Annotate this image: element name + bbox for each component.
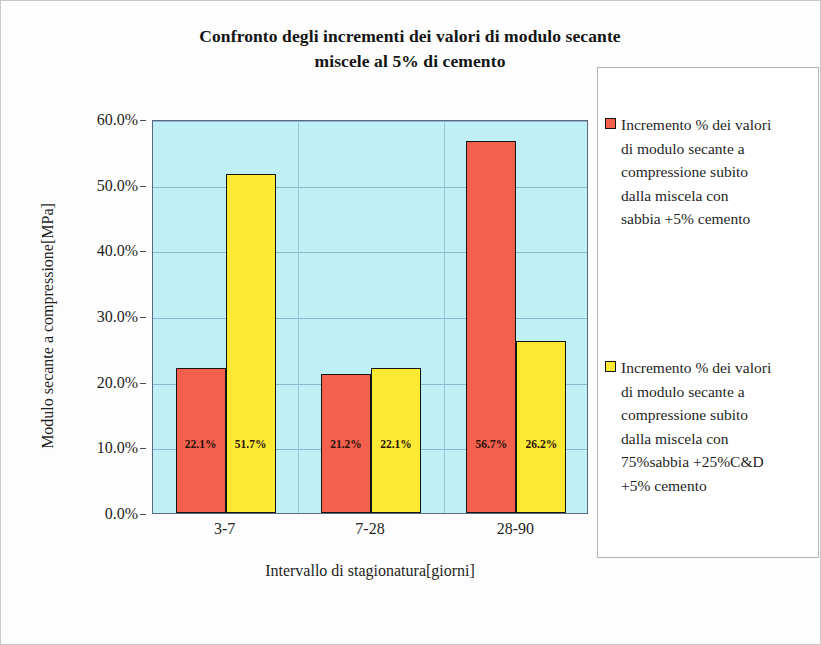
y-tick-label: 10.0% — [97, 439, 138, 457]
y-tick-mark — [140, 317, 146, 318]
legend: Incremento % dei valoridi modulo secante… — [597, 67, 819, 558]
bar-7-28-series-a[interactable]: 21.2% — [321, 374, 371, 513]
legend-label-line: compressione subito — [621, 160, 771, 184]
bar-value-label: 51.7% — [227, 438, 275, 450]
plot-area: 22.1%51.7%21.2%22.1%56.7%26.2% — [152, 120, 588, 514]
legend-label-line: dalla miscela con — [621, 427, 771, 451]
x-tick-label-7-28: 7-28 — [355, 520, 384, 538]
bar-3-7-series-b[interactable]: 51.7% — [226, 174, 276, 513]
x-axis-title: Intervallo di stagionatura[giorni] — [152, 562, 588, 580]
y-tick-label: 50.0% — [97, 177, 138, 195]
legend-label-line: 75%sabbia +25%C&D — [621, 450, 771, 474]
x-axis: 3-77-2828-90 — [152, 520, 588, 548]
gridline — [153, 252, 587, 253]
bar-28-90-series-a[interactable]: 56.7% — [466, 141, 516, 513]
y-tick-label: 60.0% — [97, 111, 138, 129]
legend-label-series-a: Incremento % dei valoridi modulo secante… — [621, 113, 771, 231]
legend-label-line: Incremento % dei valori — [621, 356, 771, 380]
bar-value-label: 56.7% — [467, 438, 515, 450]
bar-3-7-series-a[interactable]: 22.1% — [176, 368, 226, 513]
category-divider — [298, 121, 299, 513]
y-tick-mark — [140, 514, 146, 515]
legend-label-line: sabbia +5% cemento — [621, 207, 771, 231]
legend-label-line: di modulo secante a — [621, 380, 771, 404]
legend-label-series-b: Incremento % dei valoridi modulo secante… — [621, 356, 771, 497]
category-divider — [444, 121, 445, 513]
legend-entry-series-b[interactable]: Incremento % dei valoridi modulo secante… — [605, 356, 815, 497]
bar-7-28-series-b[interactable]: 22.1% — [371, 368, 421, 513]
x-tick-label-28-90: 28-90 — [497, 520, 534, 538]
bar-chart: Confronto degli incrementi dei valori di… — [0, 0, 821, 645]
x-tick-label-3-7: 3-7 — [214, 520, 235, 538]
y-tick-label: 20.0% — [97, 374, 138, 392]
y-tick-mark — [140, 448, 146, 449]
y-axis: 0.0%10.0%20.0%30.0%40.0%50.0%60.0% — [62, 120, 146, 514]
y-tick-mark — [140, 120, 146, 121]
bar-28-90-series-b[interactable]: 26.2% — [516, 341, 566, 513]
y-axis-title: Modulo secante a compressione[MPa] — [39, 126, 57, 526]
legend-label-line: dalla miscela con — [621, 184, 771, 208]
y-tick-mark — [140, 383, 146, 384]
bar-value-label: 21.2% — [322, 438, 370, 450]
chart-title-line-1: Confronto degli incrementi dei valori di… — [120, 24, 700, 49]
y-tick-label: 40.0% — [97, 242, 138, 260]
bar-value-label: 22.1% — [372, 438, 420, 450]
gridline — [153, 121, 587, 122]
legend-entry-series-a[interactable]: Incremento % dei valoridi modulo secante… — [605, 113, 815, 231]
legend-label-line: Incremento % dei valori — [621, 113, 771, 137]
gridline — [153, 318, 587, 319]
y-tick-label: 0.0% — [105, 505, 138, 523]
legend-swatch-icon-series-b — [605, 361, 616, 372]
y-tick-mark — [140, 186, 146, 187]
bar-value-label: 26.2% — [517, 438, 565, 450]
legend-label-line: +5% cemento — [621, 474, 771, 498]
bar-value-label: 22.1% — [177, 438, 225, 450]
gridline — [153, 187, 587, 188]
legend-label-line: compressione subito — [621, 403, 771, 427]
legend-swatch-icon-series-a — [605, 118, 616, 129]
y-tick-mark — [140, 251, 146, 252]
y-tick-label: 30.0% — [97, 308, 138, 326]
legend-label-line: di modulo secante a — [621, 137, 771, 161]
